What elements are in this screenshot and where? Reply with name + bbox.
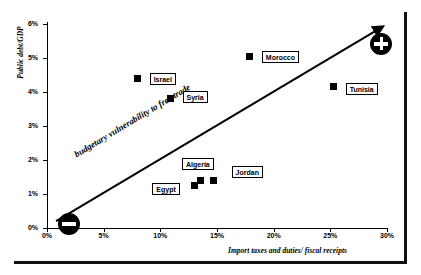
x-tick-label: 0% — [33, 232, 61, 240]
y-tick-label: 1% — [14, 190, 38, 198]
data-point-label-israel: Israel — [150, 73, 176, 85]
data-point-label-tunisia: Tunisia — [346, 83, 378, 95]
x-tick-label: 25% — [316, 232, 344, 240]
data-point-marker — [246, 53, 253, 60]
y-tick-mark — [43, 126, 47, 127]
x-tick-label: 10% — [146, 232, 174, 240]
plot-area: 0%1%2%3%4%5%6% 0%5%10%15%20%25%30% Publi… — [0, 0, 421, 275]
minus-icon — [62, 222, 76, 226]
y-tick-label: 0% — [14, 224, 38, 232]
trend-line-label: budgetary vulnerability to free trade — [72, 63, 223, 159]
data-point-label-morocco: Morocco — [262, 51, 299, 63]
plus-icon-vertical — [380, 37, 384, 50]
data-point-marker — [197, 177, 204, 184]
x-tick-label: 15% — [203, 232, 231, 240]
data-point-label-egypt: Egypt — [152, 183, 179, 195]
y-tick-label: 2% — [14, 156, 38, 164]
data-point-label-algeria: Algeria — [182, 158, 214, 170]
data-point-label-syria: Syria — [183, 91, 208, 103]
figure-scatter-public-debt-vs-import-taxes: 0%1%2%3%4%5%6% 0%5%10%15%20%25%30% Publi… — [0, 0, 421, 275]
y-tick-mark — [43, 160, 47, 161]
x-tick-label: 5% — [90, 232, 118, 240]
y-axis-title: Public debt/GDP — [16, 13, 25, 93]
x-tick-label: 20% — [260, 232, 288, 240]
y-axis-line — [47, 22, 48, 229]
high-end-badge — [370, 33, 392, 55]
data-point-marker — [167, 95, 174, 102]
x-axis-title: Import taxes and duties/ fiscal receipts — [228, 246, 347, 255]
y-tick-mark — [43, 58, 47, 59]
data-point-label-jordan: Jordan — [232, 166, 263, 178]
data-point-marker — [134, 75, 141, 82]
y-tick-label: 3% — [14, 122, 38, 130]
y-tick-mark — [43, 194, 47, 195]
y-tick-mark — [43, 24, 47, 25]
data-point-marker — [330, 83, 337, 90]
y-tick-mark — [43, 92, 47, 93]
x-tick-label: 30% — [373, 232, 401, 240]
data-point-marker — [210, 177, 217, 184]
low-end-badge — [58, 213, 80, 235]
